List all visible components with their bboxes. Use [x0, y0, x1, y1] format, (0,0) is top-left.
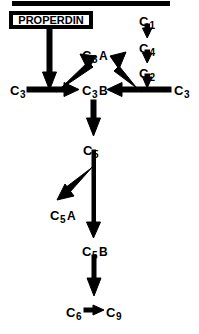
- node-base-c5b: C: [82, 244, 91, 259]
- node-label-c3b: C3B: [82, 82, 108, 98]
- properdin-box-inner: PROPERDIN: [11, 13, 91, 27]
- arrow-c3left-to-c3b: [27, 83, 79, 97]
- node-suffix-c5a: A: [67, 209, 76, 223]
- arrow-c5b-to-c6: [87, 255, 101, 296]
- node-num-c4: 4: [149, 47, 155, 58]
- node-suffix-c5b: B: [99, 245, 108, 259]
- properdin-box: PROPERDIN: [9, 11, 93, 29]
- node-sub-c5b: 5: [92, 250, 98, 261]
- arrow-c5-to-c5a: [57, 164, 95, 200]
- node-label-c4: C4: [139, 40, 154, 56]
- arrowhead-to-c5b: [87, 222, 101, 238]
- node-label-c5b: C5B: [82, 243, 108, 259]
- node-label-c3-left: C3: [10, 82, 25, 98]
- arrow-properdin-to-backbone: [43, 29, 57, 90]
- node-base-c6: C: [66, 305, 75, 320]
- node-label-c9: C9: [106, 304, 121, 320]
- node-base-c3a: C: [82, 48, 91, 63]
- node-suffix-c3b: B: [99, 84, 108, 98]
- node-sub-c5: 5: [93, 149, 99, 160]
- node-num-c2: 2: [149, 72, 155, 83]
- arrow-c6-to-c9: [84, 305, 104, 315]
- node-label-c5a: C5A: [50, 207, 76, 223]
- stem-c5-to-c5b: [92, 150, 96, 228]
- complement-cascade-diagram: PROPERDIN C3 C3A C3B C3 C1 C4 C2 C5 C5A …: [0, 0, 199, 334]
- node-sub-c5a: 5: [60, 214, 66, 225]
- node-sub-c3-left: 3: [20, 89, 26, 100]
- node-sub-c3a: 3: [92, 54, 98, 65]
- node-base-c5: C: [83, 143, 92, 158]
- properdin-label: PROPERDIN: [18, 15, 83, 26]
- node-label-c5: C5: [83, 142, 98, 158]
- node-sub-c9: 9: [116, 311, 122, 322]
- node-label-c6: C6: [66, 304, 81, 320]
- node-base-c9: C: [106, 305, 115, 320]
- node-base-c5a: C: [50, 208, 59, 223]
- node-num-c1: 1: [149, 20, 155, 31]
- node-sub-c3b: 3: [92, 89, 98, 100]
- node-label-c1: C1: [139, 13, 154, 29]
- node-base-c3-left: C: [10, 83, 19, 98]
- node-base-c1: C: [139, 14, 148, 29]
- node-base-c3b: C: [82, 83, 91, 98]
- node-sub-c3-right: 3: [184, 89, 190, 100]
- node-base-c2: C: [139, 66, 148, 81]
- node-label-c3a: C3A: [82, 47, 108, 63]
- node-suffix-c3a: A: [99, 49, 108, 63]
- node-base-c3-right: C: [174, 83, 183, 98]
- arrow-c3b-to-c5: [87, 100, 101, 136]
- node-label-c3-right: C3: [174, 82, 189, 98]
- node-sub-c6: 6: [76, 311, 82, 322]
- node-base-c4: C: [139, 41, 148, 56]
- node-label-c2: C2: [139, 65, 154, 81]
